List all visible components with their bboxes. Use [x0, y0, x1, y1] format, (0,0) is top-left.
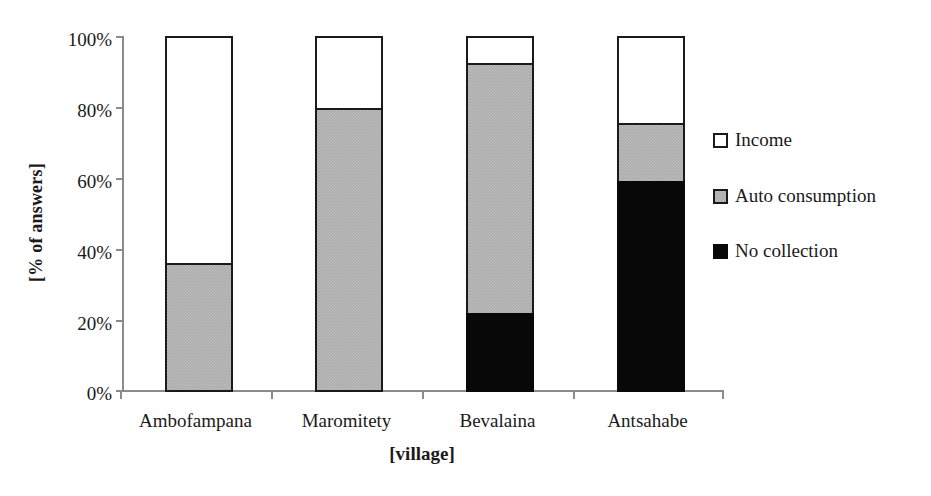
y-tick-label-text: 80% [2, 101, 112, 120]
y-tick-label-text: 100% [2, 30, 112, 49]
x-axis-label-bevalaina: Bevalaina [422, 410, 573, 432]
legend-swatch-auto-consumption-icon [713, 189, 728, 204]
legend-item-no-collection: No collection [713, 241, 838, 261]
x-axis-label-antsahabe: Antsahabe [573, 410, 722, 432]
y-tick-label-100: 100% [0, 30, 112, 49]
x-axis-label-maromitety: Maromitety [271, 410, 422, 432]
y-tick-label-text: 40% [2, 243, 112, 262]
x-axis-tick-0 [120, 390, 122, 399]
x-axis-tick-2 [422, 390, 424, 399]
x-axis-tick-1 [271, 390, 273, 399]
bar-segment-no-collection [617, 181, 685, 392]
y-tick-label-text: 20% [2, 314, 112, 333]
x-axis-label-ambofampana: Ambofampana [120, 410, 271, 432]
y-axis-tick-20 [116, 320, 124, 322]
x-axis-tick-3 [573, 390, 575, 399]
bar-segment-income [617, 36, 685, 125]
chart-container: [% of answers] 100% 80% 60% 40% 20% 0% [0, 0, 931, 496]
y-axis-tick-100 [116, 36, 124, 38]
bar-segment-income [466, 36, 534, 65]
legend-swatch-income-icon [713, 133, 728, 148]
y-axis-title: [% of answers] [26, 103, 47, 343]
y-axis-tick-60 [116, 178, 124, 180]
bar-segment-income [315, 36, 383, 110]
legend-item-auto-consumption: Auto consumption [713, 186, 876, 206]
bar-segment-auto-consumption [165, 263, 233, 392]
y-axis-tick-80 [116, 107, 124, 109]
x-axis-title: [village] [120, 443, 724, 465]
bar-segment-auto-consumption [617, 123, 685, 183]
y-tick-label-20: 20% [0, 314, 112, 333]
bar-segment-no-collection [466, 313, 534, 392]
legend-swatch-no-collection-icon [713, 244, 728, 259]
legend-label-no-collection: No collection [735, 241, 838, 261]
y-tick-label-text: 0% [2, 384, 112, 403]
y-axis-line [122, 36, 124, 392]
bar-segment-auto-consumption [315, 108, 383, 392]
legend-label-income: Income [735, 130, 792, 150]
y-tick-label-60: 60% [0, 172, 112, 191]
bar-segment-auto-consumption [466, 63, 534, 315]
y-axis-tick-40 [116, 249, 124, 251]
y-tick-label-text: 60% [2, 172, 112, 191]
bar-segment-income [165, 36, 233, 265]
legend-label-auto-consumption: Auto consumption [735, 186, 876, 206]
y-tick-label-0: 0% [0, 384, 112, 403]
legend-item-income: Income [713, 130, 792, 150]
y-tick-label-40: 40% [0, 243, 112, 262]
y-tick-label-80: 80% [0, 101, 112, 120]
x-axis-tick-4 [722, 390, 724, 399]
